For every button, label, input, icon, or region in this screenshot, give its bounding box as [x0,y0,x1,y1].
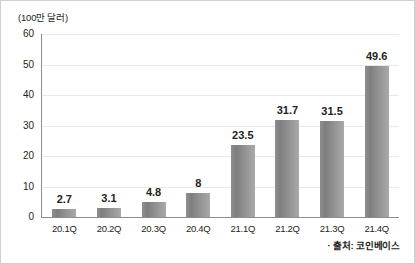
bar[interactable] [365,66,389,217]
bar[interactable] [275,120,299,217]
bar[interactable] [52,209,76,217]
y-axis-tick-label: 20 [4,151,34,161]
bar-slot [310,34,355,217]
x-axis-tick-label: 20.1Q [41,223,87,234]
y-axis-unit-caption: (100만 달러) [18,10,68,24]
bar-value-label: 23.5 [232,130,253,141]
bar-value-label: 31.7 [277,105,298,116]
source-note: · 출처: 코인베이스 [328,238,400,252]
bar-value-label: 4.8 [146,187,161,198]
x-axis-tick-label: 21.2Q [264,223,310,234]
y-axis-tick-label: 40 [4,90,34,100]
bar-slot [221,34,266,217]
bar-slot [42,34,87,217]
x-axis-tick-label: 21.1Q [220,223,266,234]
bar-slot [176,34,221,217]
bar-value-label: 2.7 [57,194,72,205]
x-axis-tick-label: 20.3Q [131,223,177,234]
x-axis-tick-label: 21.3Q [309,223,355,234]
bar-value-label: 49.6 [366,51,387,62]
bar[interactable] [231,145,255,217]
bar-value-label: 31.5 [321,106,342,117]
y-axis-tick-label: 50 [4,60,34,70]
y-axis-tick-label: 10 [4,182,34,192]
y-axis-tick-label: 0 [4,212,34,222]
y-axis-line [41,34,42,218]
x-axis-tick-label: 20.2Q [86,223,132,234]
bar[interactable] [186,193,210,217]
bar-value-label: 8 [195,178,201,189]
y-axis-tick-label: 30 [4,121,34,131]
bar[interactable] [320,121,344,217]
plot-area [42,34,399,217]
bar[interactable] [142,202,166,217]
bar-value-label: 3.1 [101,193,116,204]
bar-slot [265,34,310,217]
bar-slot [87,34,132,217]
chart-figure: (100만 달러) 01020304050602.720.1Q3.120.2Q4… [0,0,415,264]
x-axis-tick-label: 21.4Q [354,223,400,234]
x-axis-tick-label: 20.4Q [175,223,221,234]
y-axis-tick-label: 60 [4,29,34,39]
x-axis-line [41,217,399,218]
bar[interactable] [97,208,121,217]
